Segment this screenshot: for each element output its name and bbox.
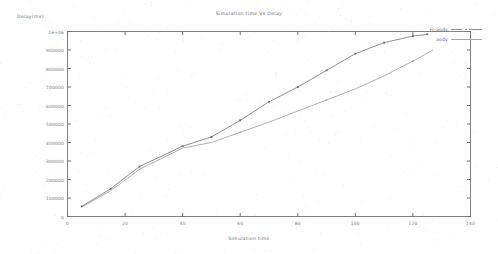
series-line-0 <box>82 34 427 206</box>
series-marker-0 <box>110 188 112 190</box>
series-marker-1 <box>240 132 241 133</box>
series-marker-1 <box>326 99 327 100</box>
legend-label-1: aodv <box>436 35 448 44</box>
legend-entry-0: Fr-aodv <box>396 25 482 34</box>
series-marker-1 <box>139 169 140 170</box>
series-marker-0 <box>139 166 141 168</box>
chart-screenshot: Simulation time Vs Delay Delay(ms) Simul… <box>0 0 498 254</box>
series-marker-1 <box>412 60 413 61</box>
series-marker-0 <box>268 101 270 103</box>
series-marker-0 <box>383 42 385 44</box>
plot-frame <box>68 32 471 217</box>
series-marker-0 <box>326 69 328 71</box>
chart-legend: Fr-aodv aodv <box>396 25 482 49</box>
series-marker-0 <box>239 119 241 121</box>
legend-line-sample-1 <box>451 39 482 40</box>
series-marker-0 <box>354 53 356 55</box>
legend-entry-1: aodv <box>396 35 482 44</box>
series-marker-0 <box>211 136 213 138</box>
legend-label-0: Fr-aodv <box>430 25 448 34</box>
legend-line-sample-0 <box>451 29 482 30</box>
series-line-1 <box>82 50 433 207</box>
axis-ticks <box>68 32 471 217</box>
data-series-layer <box>81 33 433 207</box>
legend-marker-icon-0 <box>465 29 467 30</box>
series-marker-0 <box>297 86 299 88</box>
series-marker-0 <box>182 145 184 147</box>
